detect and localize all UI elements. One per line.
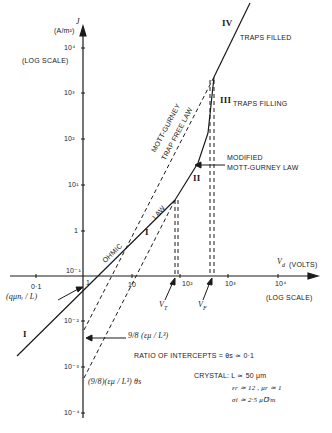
crystal-line-2: εr ≃ 12 , μr ≃ 1 xyxy=(232,385,282,392)
y-tick: 10⁻¹ xyxy=(66,267,81,274)
y-tick: 10² xyxy=(64,135,75,142)
crystal-line-3: σi ≃ 2·5 μ℧/m xyxy=(232,397,276,404)
modified-label-2: MOTT-GURNEY LAW xyxy=(227,164,298,171)
y-tick: 1 xyxy=(74,227,78,234)
x-tick: 10⁴ xyxy=(275,280,286,287)
traps-filled-label: TRAPS FILLED xyxy=(240,34,291,41)
y-tick: 10⁴ xyxy=(64,44,75,51)
modified-label-1: MODIFIED xyxy=(227,154,263,161)
traps-filling-label: TRAPS FILLING xyxy=(233,100,287,107)
x-axis-arrow-icon xyxy=(308,273,318,279)
x-tick: 10² xyxy=(182,280,193,287)
y-axis-scale-note: (LOG SCALE) xyxy=(22,57,69,64)
y-axis-label: J xyxy=(76,18,80,26)
trap-free-intercept-formula: 9/8 (εμ / L³) xyxy=(128,332,168,340)
region-i-label: I xyxy=(145,228,149,237)
y-tick: 10⁻⁴ xyxy=(64,409,80,416)
region-i-lower-label: I xyxy=(23,330,27,339)
x-tick: 0·1 xyxy=(31,283,42,290)
x-axis-unit: (VOLTS) xyxy=(289,261,318,268)
y-tick: 10⁻² xyxy=(64,317,79,324)
x-axis-label-sub: d xyxy=(282,262,285,268)
region-ii-label: II xyxy=(193,174,200,183)
vf-sub: F xyxy=(203,305,207,311)
y-axis-arrow-icon xyxy=(80,26,86,36)
x-axis-label: Vd xyxy=(277,258,285,268)
trap-free-law-line xyxy=(84,77,214,330)
x-tick: 10 xyxy=(128,281,136,288)
traps-filling-line xyxy=(208,77,214,133)
y-axis-unit: (A/m²) xyxy=(54,27,75,34)
diagram-canvas xyxy=(0,0,332,433)
trap-intercept-formula: (9/8)(εμ / L³) θs xyxy=(88,378,142,386)
x-tick: 1 xyxy=(86,279,90,286)
y-tick: 10³ xyxy=(64,89,75,96)
ratio-of-intercepts: RATIO OF INTERCEPTS = θs ≃ 0·1 xyxy=(134,352,254,359)
x-tick: 10³ xyxy=(225,280,236,287)
vf-marker: VF xyxy=(198,301,207,311)
y-tick: 10¹ xyxy=(68,181,79,188)
region-iii-label: III xyxy=(220,96,231,105)
vt-marker: VT xyxy=(159,301,168,311)
crystal-line-1: CRYSTAL: L ≃ 50 μm xyxy=(194,372,266,379)
region-iv-label: IV xyxy=(222,19,232,28)
x-axis-scale-note: (LOG SCALE) xyxy=(266,294,313,301)
y-tick: 10⁻³ xyxy=(64,363,79,370)
vt-sub: T xyxy=(164,305,168,311)
ohmic-intercept-formula: (qμnᵢ / L) xyxy=(6,293,37,301)
